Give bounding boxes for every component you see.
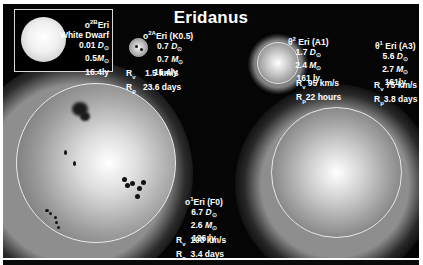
sunspot (130, 181, 135, 186)
star-diameter: 0.01 D⊙ (60, 40, 109, 53)
star-name: o2AEri (K0.5) (143, 28, 193, 41)
star-name: θ2 Eri (A1) (288, 34, 329, 47)
star-name: o2BEri (60, 17, 109, 30)
star-mass: 2.4 M⊙ (288, 60, 329, 73)
sunspot (135, 45, 138, 48)
sunspot (122, 177, 127, 182)
sunspot (141, 180, 146, 185)
sunspot (64, 150, 67, 155)
o1-eri-star (16, 83, 176, 243)
star-type: White Dwarf (60, 30, 109, 40)
star-distance: 16.4ly (60, 67, 109, 77)
star-mass: 0.7 M⊙ (143, 54, 193, 67)
sunspot (73, 161, 76, 166)
o1-eri-velocity-period: Rv 100 km/s Rp 3.4 days (176, 235, 226, 258)
star-name: o1Eri (F0) (185, 194, 223, 207)
sunspot (55, 221, 58, 224)
sunspot (49, 212, 52, 215)
star-diameter: 6.7 D⊙ (185, 207, 223, 220)
o2b-eri-label: o2BEri White Dwarf 0.01 D⊙ 0.5M⊙ 16.4ly (60, 17, 109, 77)
star-rv: Rv 1.5 km/s (126, 68, 181, 82)
star-rv: Rv 75 km/s (374, 80, 417, 94)
sunspot (80, 112, 90, 121)
theta1-eri-star (271, 107, 402, 238)
theta2-eri-label: θ2 Eri (A1) 1.7 D⊙ 2.4 M⊙ 161 ly (288, 34, 329, 84)
sunspot (57, 226, 60, 229)
star-rv: Rv 95 km/s (296, 78, 341, 92)
sunspot (54, 216, 57, 219)
sunspot (135, 194, 140, 199)
star-rp: Rp22 hours (296, 92, 341, 106)
white-dwarf-inset: o2BEri White Dwarf 0.01 D⊙ 0.5M⊙ 16.4ly (14, 9, 113, 72)
theta1-eri-velocity-period: Rv 75 km/s Rp3.8 days (374, 80, 417, 108)
star-mass: 2.7 M⊙ (375, 64, 416, 77)
footer-bar (3, 260, 419, 265)
star-diameter: 0.7 D⊙ (143, 41, 193, 54)
star-diameter: 5.6 D⊙ (375, 51, 416, 64)
star-rv: Rv 100 km/s (176, 235, 226, 249)
star-rp: Rp 23.6 days (126, 82, 181, 96)
star-name: θ1 Eri (A3) (375, 38, 416, 51)
star-diameter: 1.7 D⊙ (288, 47, 329, 60)
star-rp: Rp3.8 days (374, 94, 417, 108)
sunspot (137, 186, 142, 191)
star-mass: 0.5M⊙ (60, 53, 109, 66)
eridanus-diagram-panel: Eridanus o2BEri White Dwarf 0.01 D⊙ 0.5M… (3, 4, 419, 258)
star-rp: Rp 3.4 days (176, 249, 226, 258)
o2a-eri-velocity-period: Rv 1.5 km/s Rp 23.6 days (126, 68, 181, 96)
theta2-eri-velocity-period: Rv 95 km/s Rp22 hours (296, 78, 341, 106)
star-mass: 2.6 M⊙ (185, 220, 223, 233)
